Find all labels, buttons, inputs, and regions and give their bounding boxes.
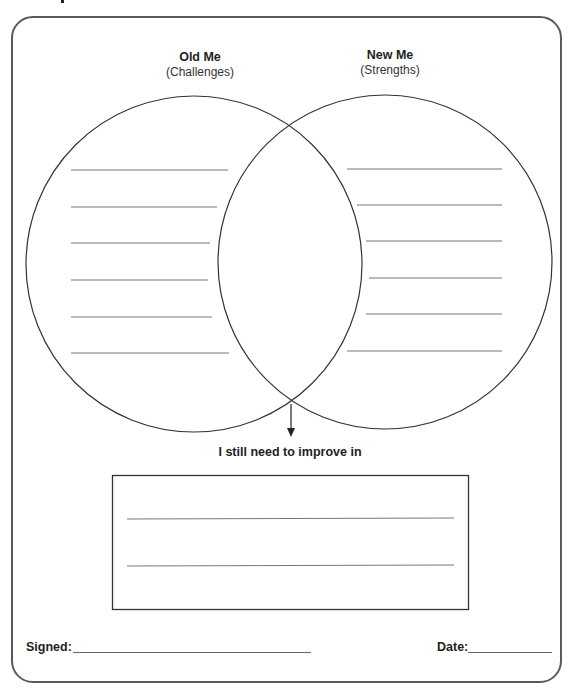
new-me-subtitle: (Strengths) xyxy=(330,63,450,78)
new-me-heading: New Me (Strengths) xyxy=(330,48,450,78)
improve-label: I still need to improve in xyxy=(190,445,390,459)
old-me-heading: Old Me (Challenges) xyxy=(140,50,260,80)
signed-label: Signed: xyxy=(26,640,72,654)
date-label: Date: xyxy=(437,640,468,654)
old-me-title: Old Me xyxy=(140,50,260,65)
old-me-subtitle: (Challenges) xyxy=(140,65,260,80)
new-me-circle xyxy=(218,95,552,429)
improve-line-1[interactable] xyxy=(127,518,454,519)
new-me-title: New Me xyxy=(330,48,450,63)
old-me-writing-lines xyxy=(71,170,229,353)
old-me-circle xyxy=(26,96,362,432)
date-line[interactable] xyxy=(468,652,552,653)
venn-diagram xyxy=(0,0,576,694)
arrow-down-icon xyxy=(287,404,295,437)
improve-line-2[interactable] xyxy=(127,565,454,566)
new-me-writing-lines xyxy=(347,169,502,351)
signature-line[interactable] xyxy=(73,652,311,653)
improve-box xyxy=(113,476,469,610)
